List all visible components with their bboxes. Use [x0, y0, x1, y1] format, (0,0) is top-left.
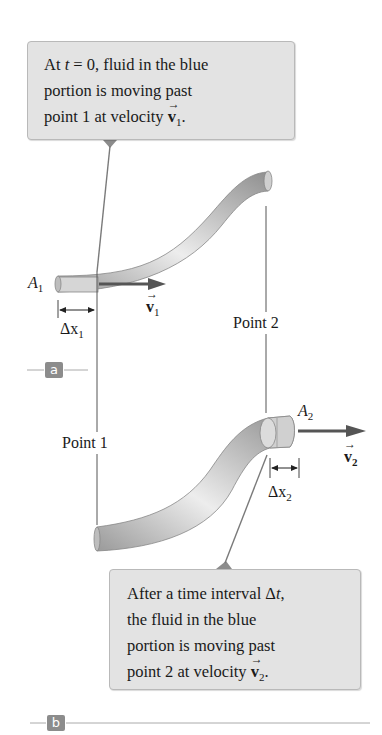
label-area-a1: A1: [28, 274, 43, 293]
label-velocity-v2: v2: [344, 448, 358, 467]
callout-top-line1: At t = 0, fluid in the blue: [44, 52, 282, 78]
callout-bottom-line1: After a time interval Δt,: [127, 581, 348, 607]
label-point-1: Point 1: [62, 434, 108, 452]
label-velocity-v1: v1: [146, 298, 160, 317]
callout-bottom-line4: point 2 at velocity v2.: [127, 659, 348, 686]
callout-initial-state: At t = 0, fluid in the blue portion is m…: [27, 41, 295, 140]
panel-tag-a: a: [45, 362, 63, 378]
tube-a: [55, 171, 272, 292]
label-delta-x1: Δx1: [60, 320, 84, 339]
callout-top-line2: portion is moving past: [44, 78, 282, 104]
tube-b: [94, 416, 366, 551]
label-delta-x2: Δx2: [268, 483, 292, 502]
callout-bottom-line2: the fluid in the blue: [127, 607, 348, 633]
velocity-vector-v1: v: [168, 104, 176, 130]
dx2-dimension: [270, 458, 299, 478]
panel-tag-b: b: [47, 715, 65, 731]
label-point-2: Point 2: [233, 314, 279, 332]
dx1-dimension: [58, 300, 95, 318]
callout-top-pointer: [97, 140, 117, 272]
callout-after-interval: After a time interval Δt, the fluid in t…: [109, 569, 361, 690]
label-area-a2: A2: [298, 402, 313, 421]
velocity-vector-v2: v: [251, 659, 259, 685]
callout-bottom-line3: portion is moving past: [127, 633, 348, 659]
callout-top-line3: point 1 at velocity v1.: [44, 104, 282, 131]
